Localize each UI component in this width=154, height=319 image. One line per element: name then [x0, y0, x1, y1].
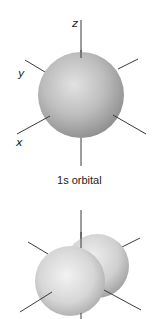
x-axis-right-back [118, 59, 138, 69]
s-orbital-figure: z y x 1s orbital [15, 17, 146, 186]
x-axis-label: x [15, 136, 23, 149]
p-axis-right-back [122, 238, 140, 247]
y-axis-back [25, 60, 45, 72]
orbital-diagram: z y x 1s orbital [0, 0, 154, 319]
y-axis-label: y [17, 67, 25, 80]
z-axis-label: z [71, 17, 78, 30]
p-orbital-figure [20, 210, 141, 319]
y-axis-front [113, 115, 146, 134]
s-orbital-caption: 1s orbital [57, 174, 102, 186]
p-axis-right-front [104, 290, 141, 310]
s-orbital-sphere [38, 52, 124, 138]
p-axis-left-back [28, 242, 48, 254]
x-axis-front [17, 116, 50, 134]
p-orbital-front-lobe [35, 246, 105, 316]
